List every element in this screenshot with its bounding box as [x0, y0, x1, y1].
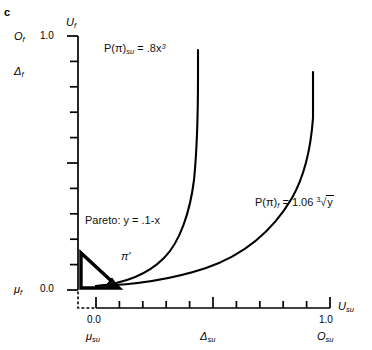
x-region-label-mu: μsu	[86, 330, 100, 344]
curve-label-p-pi-f: P(π)f = 1.06 3√y	[255, 196, 334, 210]
curve-p-pi-su	[96, 50, 198, 286]
x-axis-name: Usu	[338, 300, 354, 314]
y-region-label-mu: μf	[14, 283, 22, 297]
y-tick-label-bottom: 0.0	[40, 283, 54, 294]
x-tick-label-left: 0.0	[87, 314, 101, 325]
figure-canvas	[0, 0, 372, 350]
origin-dotted-connector	[78, 292, 96, 308]
y-axis-name: Uf	[66, 16, 76, 30]
pareto-annotation: Pareto: y = .1-x	[85, 214, 160, 226]
pi-prime-label: π'	[121, 250, 130, 262]
curve-label-p-pi-su: P(π)su = .8x3	[104, 42, 166, 56]
y-region-label-O: Of	[14, 30, 25, 44]
panel-label-c: c	[4, 6, 10, 18]
y-region-label-delta: Δf	[14, 65, 23, 79]
x-tick-label-right: 1.0	[319, 314, 333, 325]
x-region-label-O: Osu	[317, 330, 333, 344]
y-axis	[67, 36, 78, 290]
x-region-label-delta: Δsu	[200, 330, 215, 344]
cube-root-symbol: 3√y	[316, 196, 333, 208]
x-axis	[96, 297, 330, 308]
y-tick-label-top: 1.0	[40, 30, 54, 41]
